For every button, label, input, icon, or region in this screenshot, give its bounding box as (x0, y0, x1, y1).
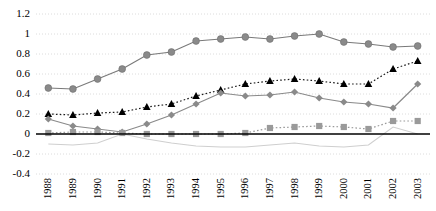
x-axis-tick-label: 1997 (265, 178, 275, 199)
data-point-marker (45, 85, 52, 92)
data-point-marker (390, 44, 397, 51)
data-point-marker (143, 103, 151, 110)
data-point-marker (193, 38, 200, 45)
data-point-marker (168, 49, 175, 56)
data-point-marker (365, 100, 372, 107)
data-point-marker (291, 124, 297, 130)
y-axis-tick-label: 0.6 (0, 68, 30, 79)
x-axis-tick-label: 1991 (117, 178, 127, 199)
data-point-marker (415, 118, 421, 124)
data-point-marker (414, 57, 422, 64)
data-point-marker (316, 94, 323, 101)
x-axis-tick-label: 1994 (191, 178, 201, 199)
data-point-marker (316, 31, 323, 38)
x-axis-tick-label: 1999 (314, 178, 324, 199)
data-point-marker (266, 91, 273, 98)
data-point-marker (365, 80, 373, 87)
data-point-marker (217, 36, 224, 43)
data-point-marker (242, 34, 249, 41)
y-axis-tick-label: 0.2 (0, 108, 30, 119)
x-axis-tick-label: 2001 (363, 178, 373, 199)
data-point-marker (341, 124, 347, 130)
x-axis-tick-label: 1989 (68, 178, 78, 199)
data-point-marker (267, 125, 273, 131)
y-axis-tick-label: -0.2 (0, 148, 30, 159)
data-point-marker (192, 100, 199, 107)
data-point-marker (389, 65, 397, 72)
x-axis-tick-label: 1990 (93, 178, 103, 199)
data-point-marker (414, 43, 421, 50)
series-triangle (45, 57, 422, 118)
data-point-marker (217, 89, 224, 96)
data-point-marker (365, 126, 371, 132)
y-axis-tick-label: -0.4 (0, 168, 30, 179)
data-point-marker (242, 80, 250, 87)
data-point-marker (340, 39, 347, 46)
data-point-marker (70, 86, 77, 93)
data-point-marker (94, 76, 101, 83)
y-axis-tick-label: 0 (0, 128, 30, 139)
data-point-marker (316, 123, 322, 129)
data-point-marker (291, 88, 298, 95)
data-point-marker (390, 118, 396, 124)
x-axis-tick-label: 1996 (240, 178, 250, 199)
data-point-marker (291, 75, 299, 82)
data-point-marker (365, 41, 372, 48)
data-point-marker (315, 77, 323, 84)
data-point-marker (119, 66, 126, 73)
data-point-marker (168, 111, 175, 118)
data-point-marker (45, 130, 51, 136)
series-line (48, 34, 417, 89)
x-axis-tick-label: 1988 (43, 178, 53, 199)
data-point-marker (143, 120, 150, 127)
data-point-marker (143, 52, 150, 59)
data-point-marker (242, 130, 248, 136)
data-point-marker (267, 36, 274, 43)
x-axis-tick-label: 2002 (388, 178, 398, 199)
data-point-marker (94, 109, 102, 116)
data-point-marker (340, 98, 347, 105)
series-circle (45, 31, 421, 93)
x-axis-tick-label: 2000 (339, 178, 349, 199)
y-axis-tick-label: 0.4 (0, 88, 30, 99)
y-axis-tick-label: 0.8 (0, 48, 30, 59)
x-axis-tick-label: 1995 (216, 178, 226, 199)
series-line (48, 61, 417, 115)
x-axis-tick-label: 1993 (166, 178, 176, 199)
x-axis-tick-label: 1992 (142, 178, 152, 199)
line-chart: 1.210.80.60.40.20-0.2-0.4 19881989199019… (0, 0, 436, 211)
y-axis-tick-label: 1 (0, 28, 30, 39)
x-axis-tick-label: 2003 (413, 178, 423, 199)
data-point-marker (291, 33, 298, 40)
data-point-marker (69, 122, 76, 129)
y-axis-tick-label: 1.2 (0, 8, 30, 19)
series-line (48, 121, 417, 134)
series-line (48, 84, 417, 132)
x-axis-tick-label: 1998 (290, 178, 300, 199)
series-diamond (45, 80, 422, 135)
data-point-marker (242, 92, 249, 99)
